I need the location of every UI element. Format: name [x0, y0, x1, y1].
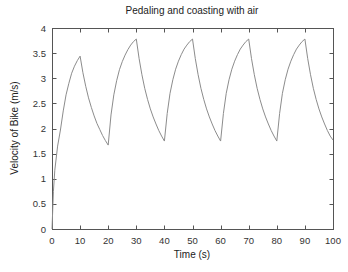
x-tick-label: 50 [187, 235, 198, 246]
x-tick-label: 60 [215, 235, 226, 246]
plot-frame [53, 29, 334, 230]
x-axis: 0102030405060708090100 [49, 29, 341, 247]
y-tick-label: 3.5 [33, 48, 46, 59]
line-chart: Pedaling and coasting with air 010203040… [0, 0, 348, 272]
y-tick-label: 0 [41, 224, 46, 235]
y-tick-label: 2.5 [33, 98, 46, 109]
chart-title: Pedaling and coasting with air [126, 5, 260, 16]
y-tick-label: 4 [41, 23, 46, 34]
x-tick-label: 20 [103, 235, 114, 246]
x-tick-label: 10 [75, 235, 86, 246]
x-tick-label: 30 [131, 235, 142, 246]
y-axis-label: Velocity of Bike (m/s) [9, 81, 20, 174]
series-layer [52, 39, 333, 229]
x-tick-label: 70 [243, 235, 254, 246]
x-tick-label: 90 [300, 235, 311, 246]
y-tick-label: 3 [41, 73, 46, 84]
y-tick-label: 2 [41, 123, 46, 134]
y-tick-label: 1.5 [33, 148, 46, 159]
x-tick-label: 100 [325, 235, 341, 246]
x-tick-label: 40 [159, 235, 170, 246]
y-tick-label: 1 [41, 173, 46, 184]
x-tick-label: 0 [49, 235, 54, 246]
y-axis: 00.511.522.533.54 [33, 23, 334, 235]
series-line-velocity [52, 39, 333, 229]
y-tick-label: 0.5 [33, 198, 46, 209]
plot-area [53, 29, 334, 230]
x-axis-label: Time (s) [174, 249, 210, 260]
x-tick-label: 80 [272, 235, 283, 246]
